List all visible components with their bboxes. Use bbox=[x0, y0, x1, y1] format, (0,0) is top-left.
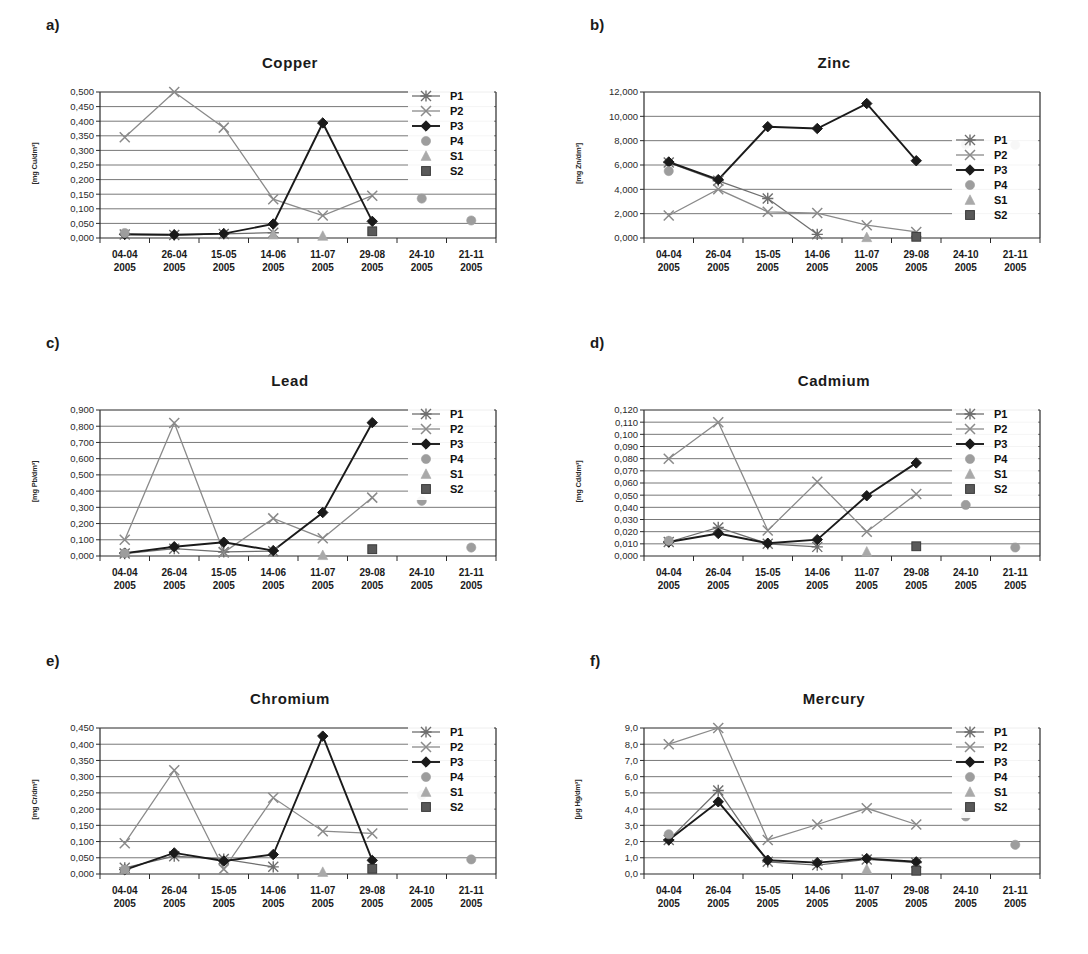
chart-legend: P1P2P3P4S1S2 bbox=[952, 404, 1038, 500]
svg-text:29-08: 29-08 bbox=[359, 567, 385, 578]
data-point-P2 bbox=[664, 210, 674, 220]
legend-label-P1: P1 bbox=[994, 408, 1007, 420]
y-tick-label: 0,200 bbox=[70, 174, 94, 185]
data-point-P1 bbox=[268, 861, 279, 872]
data-point-S1 bbox=[318, 231, 328, 241]
x-tick-label: 29-082005 bbox=[359, 885, 385, 909]
svg-text:2005: 2005 bbox=[757, 262, 780, 273]
y-tick-label: 7,0 bbox=[625, 755, 638, 766]
panel-letter: f) bbox=[590, 652, 600, 669]
y-axis-label: [mg Pb/dm³] bbox=[30, 461, 39, 503]
svg-text:14-06: 14-06 bbox=[260, 885, 286, 896]
svg-text:2005: 2005 bbox=[213, 898, 236, 909]
plot-wrapper: 0,0000,0500,1000,1500,2000,2500,3000,350… bbox=[0, 78, 544, 308]
legend-label-P4: P4 bbox=[450, 135, 464, 147]
y-tick-label: 0,100 bbox=[70, 203, 94, 214]
data-point-P1 bbox=[713, 785, 724, 796]
data-point-P4 bbox=[467, 543, 476, 552]
x-tick-label: 26-042005 bbox=[161, 885, 187, 909]
y-tick-label: 0,090 bbox=[614, 441, 638, 452]
x-tick-label: 14-062005 bbox=[260, 567, 286, 591]
svg-text:24-10: 24-10 bbox=[409, 249, 435, 260]
chart-legend: P1P2P3P4S1S2 bbox=[952, 722, 1038, 818]
series-line-P2 bbox=[669, 728, 917, 840]
x-tick-label: 26-042005 bbox=[161, 249, 187, 273]
svg-text:2005: 2005 bbox=[905, 898, 928, 909]
data-point-P2 bbox=[911, 820, 921, 830]
data-point-S1 bbox=[862, 547, 872, 557]
data-point-P4 bbox=[1011, 840, 1020, 849]
svg-text:2005: 2005 bbox=[955, 262, 978, 273]
legend-label-S1: S1 bbox=[994, 468, 1007, 480]
svg-text:2005: 2005 bbox=[806, 580, 829, 591]
svg-text:14-06: 14-06 bbox=[804, 567, 830, 578]
svg-text:14-06: 14-06 bbox=[804, 249, 830, 260]
legend-label-P2: P2 bbox=[450, 423, 463, 435]
panel-letter: e) bbox=[46, 652, 60, 669]
svg-text:29-08: 29-08 bbox=[359, 249, 385, 260]
x-tick-label: 04-042005 bbox=[112, 249, 138, 273]
chart-legend: P1P2P3P4S1S2 bbox=[408, 86, 494, 182]
chart-title: Lead bbox=[0, 372, 544, 389]
data-point-P2 bbox=[169, 765, 179, 775]
data-point-S2 bbox=[368, 864, 377, 873]
svg-text:2005: 2005 bbox=[114, 898, 137, 909]
svg-text:14-06: 14-06 bbox=[260, 249, 286, 260]
y-tick-label: 0,050 bbox=[614, 490, 638, 501]
y-tick-label: 0,010 bbox=[614, 538, 638, 549]
svg-text:2005: 2005 bbox=[806, 898, 829, 909]
x-tick-label: 04-042005 bbox=[656, 567, 682, 591]
x-tick-label: 11-072005 bbox=[310, 885, 335, 909]
svg-text:29-08: 29-08 bbox=[903, 885, 929, 896]
data-point-P4 bbox=[664, 166, 673, 175]
svg-text:15-05: 15-05 bbox=[755, 567, 781, 578]
svg-text:14-06: 14-06 bbox=[804, 885, 830, 896]
svg-text:15-05: 15-05 bbox=[211, 885, 237, 896]
y-tick-label: 0,070 bbox=[614, 465, 638, 476]
legend-label-P2: P2 bbox=[994, 149, 1007, 161]
legend-label-P1: P1 bbox=[994, 726, 1007, 738]
y-tick-label: 0,400 bbox=[70, 116, 94, 127]
figure-panel-grid: a)Copper0,0000,0500,1000,1500,2000,2500,… bbox=[0, 0, 1088, 954]
svg-text:2005: 2005 bbox=[905, 262, 928, 273]
x-tick-label: 24-102005 bbox=[409, 249, 435, 273]
x-tick-label: 04-042005 bbox=[656, 885, 682, 909]
svg-text:2005: 2005 bbox=[213, 580, 236, 591]
legend-label-P3: P3 bbox=[994, 438, 1007, 450]
y-tick-label: 0,040 bbox=[614, 502, 638, 513]
data-point-P2 bbox=[268, 793, 278, 803]
plot-wrapper: 0,01,02,03,04,05,06,07,08,09,004-0420052… bbox=[544, 714, 1088, 944]
data-point-P4 bbox=[664, 830, 673, 839]
data-point-P2 bbox=[763, 525, 773, 535]
x-tick-label: 04-042005 bbox=[112, 885, 138, 909]
series-line-P2 bbox=[125, 92, 372, 216]
y-tick-label: 8,0 bbox=[625, 739, 638, 750]
svg-text:24-10: 24-10 bbox=[409, 567, 435, 578]
x-tick-label: 21-112005 bbox=[1003, 567, 1028, 591]
chart-panel-chromium: e)Chromium0,0000,0500,1000,1500,2000,250… bbox=[0, 636, 544, 954]
chart-title: Copper bbox=[0, 54, 544, 71]
svg-text:21-11: 21-11 bbox=[459, 567, 484, 578]
y-axis-label: [mg Cr/dm³] bbox=[30, 779, 39, 819]
y-tick-label: 0,350 bbox=[70, 755, 94, 766]
svg-text:2005: 2005 bbox=[262, 262, 285, 273]
data-point-S1 bbox=[318, 550, 328, 560]
y-tick-label: 0,300 bbox=[70, 502, 94, 513]
legend-label-P4: P4 bbox=[994, 453, 1008, 465]
data-point-P2 bbox=[120, 132, 130, 142]
data-point-P4 bbox=[1011, 543, 1020, 552]
x-tick-label: 29-082005 bbox=[903, 567, 929, 591]
svg-text:2005: 2005 bbox=[262, 580, 285, 591]
y-tick-label: 6,0 bbox=[625, 771, 638, 782]
x-tick-label: 24-102005 bbox=[953, 885, 979, 909]
y-tick-label: 0,450 bbox=[70, 722, 94, 733]
y-tick-label: 3,0 bbox=[625, 820, 638, 831]
plot-area: 0,0000,0100,0200,0300,0400,0500,0600,070… bbox=[544, 396, 1088, 626]
svg-text:11-07: 11-07 bbox=[310, 885, 335, 896]
svg-text:04-04: 04-04 bbox=[112, 567, 138, 578]
y-tick-label: 0,0 bbox=[625, 868, 638, 879]
x-tick-label: 15-052005 bbox=[211, 885, 237, 909]
data-point-P2 bbox=[219, 123, 229, 133]
svg-text:2005: 2005 bbox=[658, 580, 681, 591]
svg-text:2005: 2005 bbox=[411, 262, 434, 273]
